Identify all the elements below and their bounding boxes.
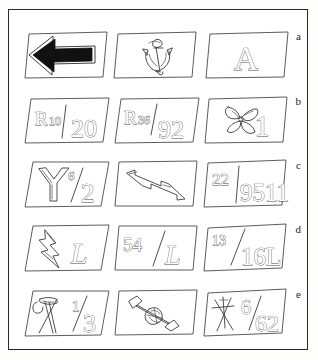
plate-row-a: a <box>9 24 307 88</box>
propeller-one-tile: 1 <box>203 95 289 145</box>
twentytwo-prefix-glyph: 22 <box>212 170 229 189</box>
r10-20-tile: R 10 20 <box>23 95 109 145</box>
letter-a-glyph: A <box>234 40 259 77</box>
twentytwo-9511-tile: 22 9511 <box>203 159 289 209</box>
plate-row-b: b R 10 20 R 36 92 <box>9 89 307 153</box>
r10-prefix-glyph: R <box>35 108 48 129</box>
three-denominator-glyph: 3 <box>83 309 96 338</box>
two-denominator-glyph: 2 <box>81 178 95 208</box>
row-label-c: c <box>296 159 301 171</box>
crossed-arrows-six-62-tile: 6 62 <box>203 288 289 338</box>
r36-number-glyph: 36 <box>138 113 150 127</box>
plate-row-e: e 1 3 <box>9 282 307 346</box>
one-numerator-glyph: 1 <box>72 298 80 314</box>
row-label-d: d <box>296 223 302 235</box>
anchor-tile <box>113 30 199 80</box>
r36-prefix-glyph: R <box>124 107 137 128</box>
wrench-bolt-tile <box>113 288 199 338</box>
letter-a-tile: A <box>203 30 289 80</box>
plate-frame: a <box>8 9 308 350</box>
row-label-b: b <box>296 95 302 107</box>
plate-row-d: d L 54 L <box>9 217 307 281</box>
r10-suffix-glyph: 20 <box>71 114 97 143</box>
zigzag-arrow-tile <box>113 159 199 209</box>
thirteen-prefix-glyph: 13 <box>212 233 226 248</box>
six-numerator-glyph: 6 <box>241 296 251 318</box>
row-label-a: a <box>296 30 301 42</box>
thirteen-16l-tile: 13 16L <box>203 223 289 273</box>
cursive-l-glyph: L <box>70 236 88 269</box>
left-arrow-tile <box>23 30 109 80</box>
number-one-glyph: 1 <box>255 109 270 142</box>
six-numerator-glyph: 6 <box>68 168 75 183</box>
y-six-two-tile: 6 2 <box>23 159 109 209</box>
sixteen-l-suffix-glyph: 16L <box>241 243 281 270</box>
r36-suffix-glyph: 92 <box>158 115 184 144</box>
fiftyfour-prefix-glyph: 54 <box>123 234 143 255</box>
figure-plate: a <box>0 0 318 360</box>
sixtytwo-denominator-glyph: 62 <box>255 310 279 336</box>
plate-row-c: c 6 2 <box>9 153 307 217</box>
r36-92-tile: R 36 92 <box>113 95 199 145</box>
lightning-l-tile: L <box>23 223 109 273</box>
crossed-tools-third-tile: 1 3 <box>23 288 109 338</box>
r10-number-glyph: 10 <box>49 114 61 128</box>
row-label-e: e <box>296 288 301 300</box>
cursive-l-suffix-glyph: L <box>164 239 181 270</box>
fiftyfour-l-tile: 54 L <box>113 223 199 273</box>
nine-five-one-one-suffix-glyph: 9511 <box>240 179 289 206</box>
